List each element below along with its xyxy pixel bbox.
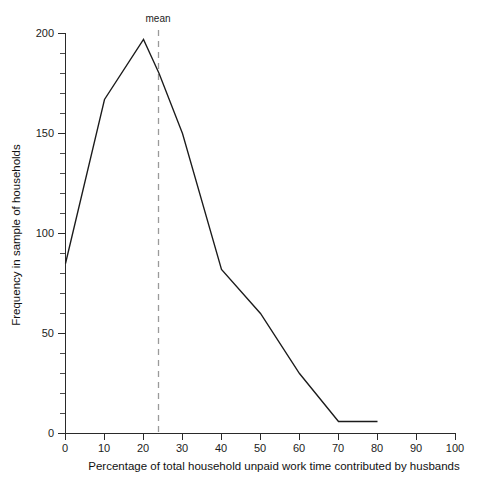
y-tick-label-0: 0	[48, 427, 54, 439]
x-tick-label-30: 30	[176, 442, 188, 454]
x-tick-label-90: 90	[410, 442, 422, 454]
mean-annotation: mean	[145, 13, 170, 433]
chart-figure: 200 150 100 50 0 0 10 20 30 40	[0, 0, 483, 485]
x-axis-title: Percentage of total household unpaid wor…	[88, 460, 460, 472]
x-tick-label-0: 0	[62, 442, 68, 454]
x-tick-label-20: 20	[137, 442, 149, 454]
mean-label: mean	[145, 13, 170, 24]
x-axis-ticks	[66, 433, 456, 440]
axes-group	[65, 33, 456, 434]
x-tick-label-50: 50	[254, 442, 266, 454]
x-tick-label-70: 70	[332, 442, 344, 454]
line-chart: 200 150 100 50 0 0 10 20 30 40	[0, 0, 483, 485]
y-tick-label-200: 200	[36, 27, 54, 39]
x-tick-label-60: 60	[293, 442, 305, 454]
x-tick-label-40: 40	[215, 442, 227, 454]
y-tick-label-50: 50	[42, 327, 54, 339]
x-tick-label-10: 10	[98, 442, 110, 454]
y-tick-label-150: 150	[36, 127, 54, 139]
y-axis-title: Frequency in sample of households	[10, 144, 22, 326]
frequency-polygon-line	[66, 40, 378, 422]
x-axis-tick-labels: 0 10 20 30 40 50 60 70 80 90 100	[62, 442, 464, 454]
y-axis-tick-labels: 200 150 100 50 0	[36, 27, 54, 439]
y-tick-label-100: 100	[36, 227, 54, 239]
x-tick-label-80: 80	[371, 442, 383, 454]
x-tick-label-100: 100	[446, 442, 464, 454]
